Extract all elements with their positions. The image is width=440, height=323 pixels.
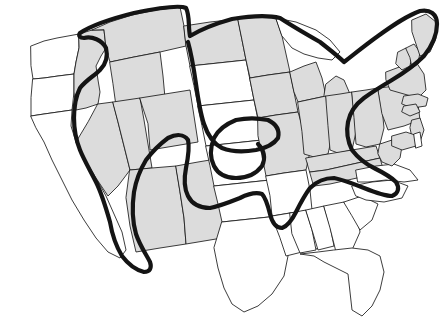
state-iowa: [250, 72, 298, 118]
us-region-map-figure: [0, 0, 440, 323]
state-arizona: [126, 166, 186, 252]
united-states-map-svg: [0, 0, 440, 323]
state-oregon: [31, 74, 74, 116]
